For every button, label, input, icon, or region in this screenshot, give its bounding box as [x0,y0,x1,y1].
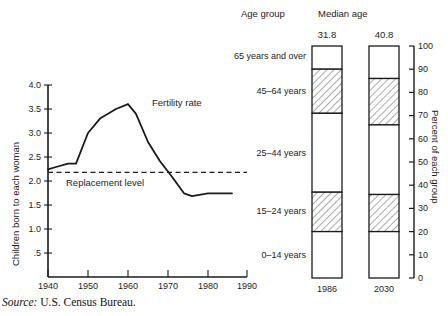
bar-category-label-2030: 2030 [367,284,401,294]
percent-tick-label: 90 [418,64,428,74]
percent-tick-label: 70 [418,110,428,120]
percent-tick-label: 60 [418,134,428,144]
percent-axis-title: Percent of each group [430,110,441,203]
source-label: Source: [2,296,37,308]
percent-tick-label: 10 [418,250,428,260]
age-group-label-45-64: 45–64 years [186,86,306,96]
bar-1986 [312,46,342,278]
percent-tick-label: 50 [418,157,428,167]
age-group-label-65-plus: 65 years and over [186,51,306,61]
x-tick-label: 1940 [33,281,63,291]
percent-axis [409,46,414,278]
median-age-1986: 31.8 [312,30,342,40]
replacement-level-annotation: Replacement level [66,178,144,188]
percent-tick-label: 20 [418,227,428,237]
chart-canvas [0,0,448,316]
percent-tick-label: 30 [418,203,428,213]
median-age-2030: 40.8 [369,30,399,40]
age-group-label-15-24: 15–24 years [186,206,306,216]
age-group-header: Age group [241,8,285,19]
source-note: Source: U.S. Census Bureau. [2,296,136,308]
fertility-rate-annotation: Fertility rate [152,98,202,108]
bar-category-label-1986: 1986 [310,284,344,294]
median-age-header: Median age [318,8,368,19]
percent-tick-label: 0 [418,273,423,283]
x-tick-label: 1970 [153,281,183,291]
source-value: U.S. Census Bureau. [40,296,136,308]
y-tick-label: 3.0 [16,128,41,138]
y-tick-label: 4.0 [16,80,41,90]
age-group-label-25-44: 25–44 years [186,148,306,158]
percent-tick-label: 100 [418,41,433,51]
percent-tick-label: 40 [418,180,428,190]
x-tick-label: 1950 [73,281,103,291]
x-tick-label: 1990 [232,281,262,291]
x-tick-label: 1980 [193,281,223,291]
y-axis-title: Children born to each woman [10,142,21,266]
age-group-label-0-14: 0–14 years [186,250,306,260]
percent-tick-label: 80 [418,87,428,97]
x-tick-label: 1960 [113,281,143,291]
figure-population-chart: 4.0 3.5 3.0 2.5 2.0 1.5 1.0 .5 Children … [0,0,448,316]
y-tick-label: 3.5 [16,104,41,114]
bar-2030 [369,46,399,278]
